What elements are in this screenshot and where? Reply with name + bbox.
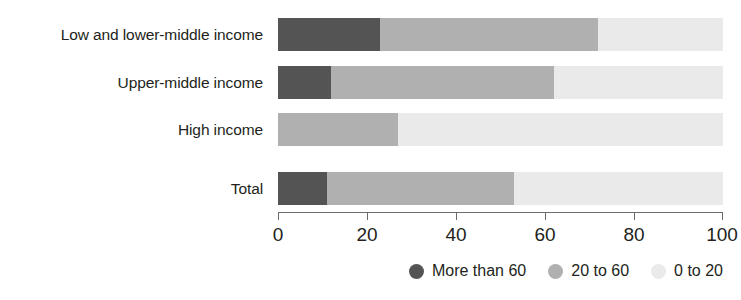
x-axis-tick-label: 20 bbox=[356, 224, 377, 246]
legend-item-0-to-20[interactable]: 0 to 20 bbox=[651, 262, 723, 280]
bar-segment-more-than-60[interactable] bbox=[278, 18, 380, 51]
bar-segment-0-to-20[interactable] bbox=[398, 113, 723, 146]
stacked-bar-chart: Low and lower-middle income Upper-middle… bbox=[0, 0, 741, 300]
x-axis-tick-label: 80 bbox=[623, 224, 644, 246]
legend-item-more-than-60[interactable]: More than 60 bbox=[409, 262, 526, 280]
chart-row: Upper-middle income bbox=[0, 66, 741, 99]
category-label: Upper-middle income bbox=[118, 74, 263, 92]
chart-row-total: Total bbox=[0, 172, 741, 205]
category-label: Total bbox=[231, 180, 263, 198]
x-axis-tick bbox=[278, 212, 279, 220]
x-axis: 0 20 40 60 80 100 bbox=[278, 212, 723, 213]
x-axis-tick-label: 40 bbox=[445, 224, 466, 246]
bar-segment-20-to-60[interactable] bbox=[380, 18, 598, 51]
category-label: High income bbox=[178, 121, 263, 139]
bar-segment-more-than-60[interactable] bbox=[278, 66, 331, 99]
legend-label: 20 to 60 bbox=[571, 262, 629, 280]
x-axis-tick bbox=[456, 212, 457, 220]
bar-segment-20-to-60[interactable] bbox=[331, 66, 554, 99]
chart-row: Low and lower-middle income bbox=[0, 18, 741, 51]
x-axis-tick-label: 100 bbox=[706, 224, 738, 246]
x-axis-tick-label: 60 bbox=[534, 224, 555, 246]
stacked-bar[interactable] bbox=[278, 113, 723, 146]
legend-label: More than 60 bbox=[432, 262, 526, 280]
x-axis-tick bbox=[367, 212, 368, 220]
category-label: Low and lower-middle income bbox=[61, 26, 263, 44]
chart-legend: More than 60 20 to 60 0 to 20 bbox=[0, 262, 741, 280]
bar-segment-more-than-60[interactable] bbox=[278, 172, 327, 205]
stacked-bar[interactable] bbox=[278, 172, 723, 205]
bar-segment-20-to-60[interactable] bbox=[327, 172, 514, 205]
bar-segment-20-to-60[interactable] bbox=[278, 113, 398, 146]
legend-swatch-icon bbox=[409, 264, 424, 279]
x-axis-tick bbox=[634, 212, 635, 220]
bar-segment-0-to-20[interactable] bbox=[514, 172, 723, 205]
legend-swatch-icon bbox=[651, 264, 666, 279]
x-axis-tick bbox=[722, 212, 723, 220]
legend-label: 0 to 20 bbox=[674, 262, 723, 280]
x-axis-tick-label: 0 bbox=[273, 224, 284, 246]
chart-row: High income bbox=[0, 113, 741, 146]
legend-item-20-to-60[interactable]: 20 to 60 bbox=[548, 262, 629, 280]
x-axis-tick bbox=[545, 212, 546, 220]
bar-segment-0-to-20[interactable] bbox=[598, 18, 723, 51]
bar-segment-0-to-20[interactable] bbox=[554, 66, 723, 99]
legend-swatch-icon bbox=[548, 264, 563, 279]
stacked-bar[interactable] bbox=[278, 18, 723, 51]
stacked-bar[interactable] bbox=[278, 66, 723, 99]
